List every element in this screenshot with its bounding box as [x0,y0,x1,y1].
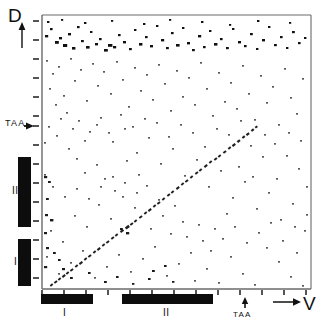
y-axis-taa-label: TAA [5,119,25,128]
y-axis-name-label: D [8,6,22,25]
bottom-region-bar-II [122,294,213,304]
right-arrow-icon [24,122,34,129]
x-axis-name-label: V [303,294,316,313]
right-arrow-icon-v [273,298,301,305]
dot-matrix-points [44,19,308,287]
left-region-bar-I [18,239,31,286]
x-axis-region-label-II: II [163,308,170,318]
y-axis-region-label-II: II [12,186,19,196]
up-arrow-icon-bottom [242,297,248,308]
left-region-bar-II [18,157,31,227]
x-axis-region-label-I: I [63,308,66,318]
diagonal-homology-line [50,125,258,286]
dot-matrix-figure: D V TAA TAA II I I II [0,0,331,325]
y-axis-region-label-I: I [14,257,17,267]
y-axis-ticks [33,21,39,278]
plot-frame [42,15,311,289]
x-axis-taa-label: TAA [233,311,252,319]
bottom-region-bar-I [41,294,93,304]
dot-matrix-plot-canvas [0,0,331,325]
